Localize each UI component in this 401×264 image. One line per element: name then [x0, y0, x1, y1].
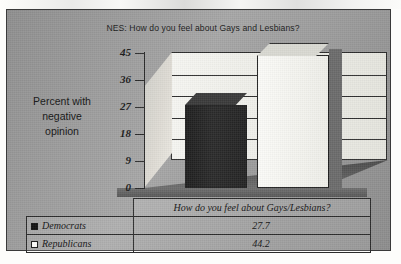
y-tick-mark-0	[135, 188, 145, 189]
y-tick-mark-36	[135, 80, 145, 81]
plot-left-wall	[144, 52, 172, 188]
y-axis-line	[144, 52, 145, 188]
scan-artifact-streak	[0, 0, 401, 9]
y-tick-label-45: 45	[105, 46, 131, 58]
y-tick-label-36: 36	[105, 73, 131, 85]
y-tick-mark-18	[135, 134, 145, 135]
value-democrats: 27.7	[234, 220, 270, 231]
y-tick-label-9: 9	[105, 154, 131, 166]
table-header-row: How do you feel about Gays/Lesbians?	[27, 199, 371, 217]
bar-democrats-face	[185, 105, 247, 188]
y-axis-title-line-3: opinion	[15, 124, 109, 139]
bar-republicans-face	[257, 55, 329, 188]
legend-label-democrats: Democrats	[42, 220, 86, 231]
value-republicans: 44.2	[234, 238, 270, 249]
table-row[interactable]: Republicans 44.2	[27, 235, 371, 253]
y-tick-mark-27	[135, 107, 145, 108]
legend-item-republicans[interactable]: Republicans	[27, 235, 134, 253]
legend-swatch-republicans	[31, 241, 38, 248]
y-tick-label-0: 0	[105, 181, 131, 193]
scanned-page: NES: How do you feel about Gays and Lesb…	[0, 0, 401, 264]
y-axis-title-line-2: negative	[15, 109, 109, 124]
bar-republicans[interactable]	[257, 55, 329, 188]
legend-swatch-democrats	[31, 223, 38, 230]
table-corner-cell	[27, 199, 134, 217]
chart-title: NES: How do you feel about Gays and Lesb…	[53, 23, 353, 33]
plot-area: 45 36 27 18 9 0	[117, 46, 395, 198]
y-axis-title-line-1: Percent with	[15, 94, 109, 109]
y-tick-label-27: 27	[105, 100, 131, 112]
y-axis-title: Percent with negative opinion	[15, 94, 109, 139]
table-category-header: How do you feel about Gays/Lesbians?	[134, 199, 371, 217]
legend-item-democrats[interactable]: Democrats	[27, 217, 134, 235]
bar-republicans-side	[329, 49, 342, 188]
y-tick-mark-9	[135, 161, 145, 162]
value-cell-republicans: 44.2	[134, 235, 371, 253]
plot-floor-front	[117, 188, 367, 197]
legend-label-republicans: Republicans	[42, 238, 91, 249]
value-cell-democrats: 27.7	[134, 217, 371, 235]
table-row[interactable]: Democrats 27.7	[27, 217, 371, 235]
bar-democrats[interactable]	[185, 105, 247, 188]
chart-frame: NES: How do you feel about Gays and Lesb…	[6, 9, 391, 251]
y-tick-mark-45	[135, 53, 145, 54]
y-tick-label-18: 18	[105, 127, 131, 139]
data-table: How do you feel about Gays/Lesbians? Dem…	[26, 198, 371, 253]
